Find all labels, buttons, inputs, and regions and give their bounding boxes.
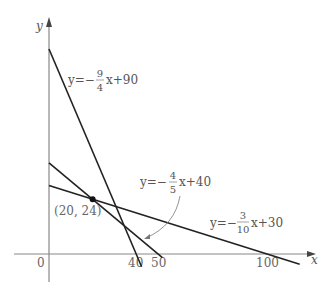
equation-label-2: y=− 4 5 x+40	[139, 170, 211, 195]
origin-label: 0	[37, 256, 45, 270]
eq2-numerator: 4	[170, 170, 176, 181]
eq1-denominator: 4	[97, 82, 103, 93]
equation-label-3: y=− 3 10 x+30	[209, 210, 283, 235]
eq2-denominator: 5	[170, 184, 176, 195]
intersection-point	[90, 196, 96, 202]
equation-label-1: y=− 9 4 x+90	[67, 68, 138, 93]
eq1-suffix: x+90	[106, 73, 138, 87]
leader-arrow-icon	[144, 234, 150, 239]
eq3-suffix: x+30	[251, 216, 283, 230]
eq3-numerator: 3	[240, 210, 246, 221]
eq1-prefix: y=−	[67, 73, 95, 87]
y-axis-label: y	[35, 19, 43, 33]
eq2-prefix: y=−	[139, 175, 167, 189]
axes	[14, 17, 316, 282]
eq3-prefix: y=−	[209, 216, 237, 230]
x-axis-label: x	[311, 253, 318, 267]
point-label: (20, 24)	[54, 204, 102, 218]
x-tick-40: 40	[128, 256, 143, 270]
eq3-denominator: 10	[237, 224, 250, 235]
x-tick-100: 100	[256, 256, 279, 270]
eq1-numerator: 9	[97, 68, 103, 79]
x-tick-50: 50	[151, 256, 166, 270]
y-axis-arrow-icon	[46, 17, 52, 27]
eq2-suffix: x+40	[179, 175, 211, 189]
coordinate-diagram: y x 0 40 50 100 (20, 24) y=− 9 4 x+90 y=…	[0, 0, 329, 297]
